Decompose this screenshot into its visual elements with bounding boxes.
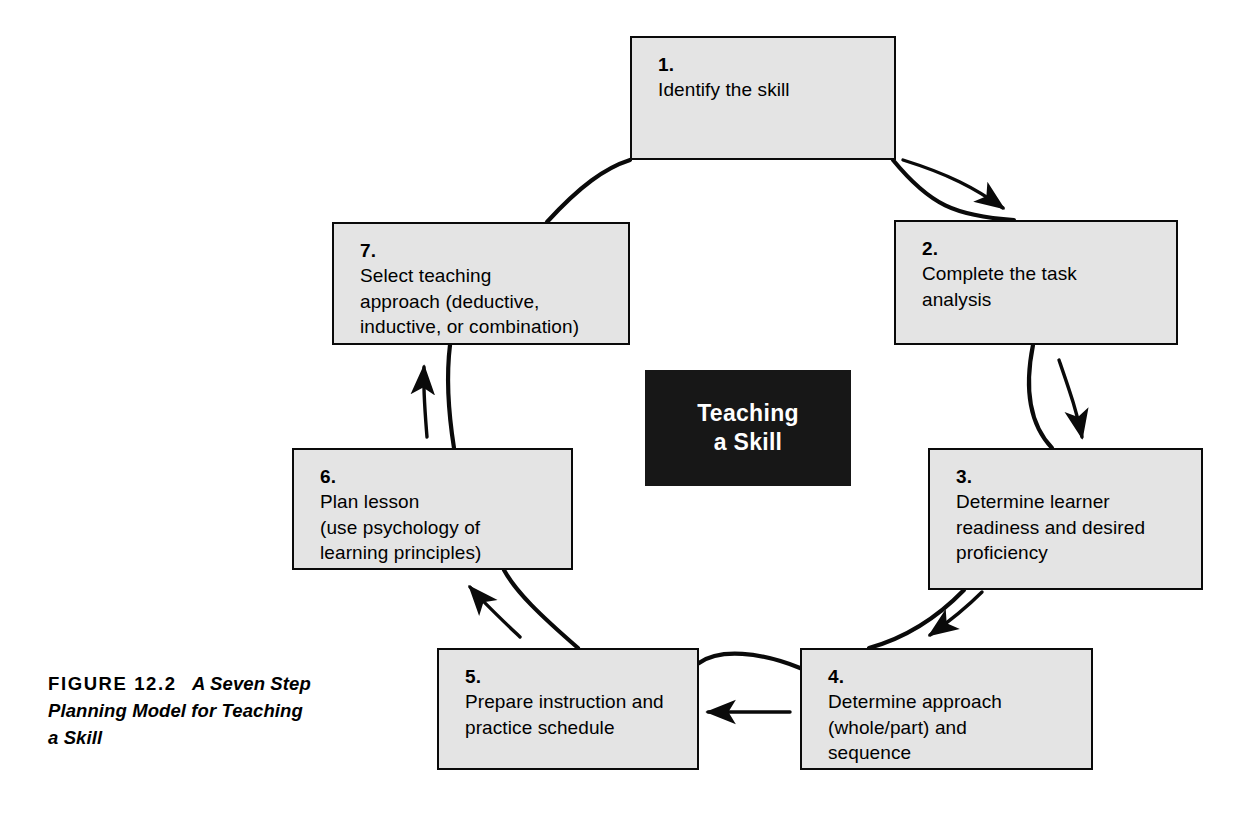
link-5-to-6 bbox=[504, 570, 578, 648]
step-text: Select teaching approach (deductive, ind… bbox=[360, 263, 628, 340]
step-number: 2. bbox=[922, 236, 1176, 261]
arrow-2-to-3 bbox=[1059, 360, 1082, 437]
center-label-line1: Teaching bbox=[697, 400, 799, 426]
step-text: Identify the skill bbox=[658, 77, 894, 103]
step-text: Determine approach (whole/part) and sequ… bbox=[828, 689, 1091, 766]
step-text: Prepare instruction and practice schedul… bbox=[465, 689, 697, 740]
step-box-7[interactable]: 7. Select teaching approach (deductive, … bbox=[332, 222, 630, 345]
center-label-box: Teaching a Skill bbox=[645, 370, 851, 486]
step-box-3[interactable]: 3. Determine learner readiness and desir… bbox=[928, 448, 1203, 590]
link-2-to-3 bbox=[1029, 345, 1052, 448]
center-label-text: Teaching a Skill bbox=[697, 399, 799, 457]
step-number: 3. bbox=[956, 464, 1201, 489]
arrow-6-to-7 bbox=[424, 367, 427, 437]
step-number: 4. bbox=[828, 664, 1091, 689]
step-number: 7. bbox=[360, 238, 628, 263]
figure-canvas: 1. Identify the skill 2. Complete the ta… bbox=[0, 0, 1250, 815]
step-box-4[interactable]: 4. Determine approach (whole/part) and s… bbox=[800, 648, 1093, 770]
step-box-1[interactable]: 1. Identify the skill bbox=[630, 36, 896, 160]
center-label-line2: a Skill bbox=[714, 429, 783, 455]
figure-caption: FIGURE 12.2 A Seven Step Planning Model … bbox=[48, 670, 318, 751]
step-text: Complete the task analysis bbox=[922, 261, 1176, 312]
step-box-5[interactable]: 5. Prepare instruction and practice sche… bbox=[437, 648, 699, 770]
link-6-to-7 bbox=[448, 345, 454, 448]
step-text: Determine learner readiness and desired … bbox=[956, 489, 1201, 566]
figure-number: FIGURE 12.2 bbox=[48, 673, 177, 694]
step-number: 6. bbox=[320, 464, 571, 489]
step-number: 5. bbox=[465, 664, 697, 689]
arrow-5-to-6 bbox=[470, 587, 520, 637]
step-text: Plan lesson (use psychology of learning … bbox=[320, 489, 571, 566]
link-1-to-2 bbox=[893, 160, 1014, 220]
step-box-6[interactable]: 6. Plan lesson (use psychology of learni… bbox=[292, 448, 573, 570]
link-7-to-1 bbox=[547, 160, 630, 222]
link-4-to-5 bbox=[699, 654, 800, 668]
step-box-2[interactable]: 2. Complete the task analysis bbox=[894, 220, 1178, 345]
step-number: 1. bbox=[658, 52, 894, 77]
